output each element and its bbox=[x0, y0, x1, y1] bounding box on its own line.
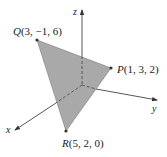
triangle-QPR bbox=[37, 40, 111, 131]
point-Q bbox=[35, 38, 38, 41]
point-P bbox=[109, 66, 112, 69]
point-Q-label: Q(3, −1, 6) bbox=[13, 26, 62, 37]
coordinate-diagram bbox=[0, 0, 167, 157]
point-R-name: R bbox=[62, 137, 69, 149]
x-axis bbox=[15, 103, 56, 130]
point-P-name: P bbox=[117, 63, 124, 75]
point-P-coords: (1, 3, 2) bbox=[124, 63, 159, 75]
point-R-label: R(5, 2, 0) bbox=[62, 138, 104, 149]
point-R-coords: (5, 2, 0) bbox=[69, 137, 104, 149]
x-axis-label: x bbox=[6, 125, 10, 135]
y-axis-label: y bbox=[152, 104, 156, 114]
point-P-label: P(1, 3, 2) bbox=[117, 64, 159, 75]
point-Q-name: Q bbox=[13, 25, 21, 37]
point-Q-coords: (3, −1, 6) bbox=[21, 25, 62, 37]
z-axis-label: z bbox=[73, 7, 77, 17]
point-R bbox=[64, 129, 67, 132]
y-axis bbox=[96, 89, 157, 100]
